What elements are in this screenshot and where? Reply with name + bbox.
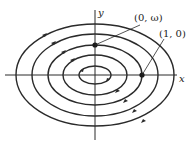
- x-axis-label: x: [179, 73, 185, 84]
- phase-portrait: x y (0, ω) (1, 0): [0, 0, 193, 146]
- arrow-icon: [141, 119, 146, 123]
- y-axis-label: y: [97, 7, 104, 18]
- label-0-omega: (0, ω): [134, 12, 163, 23]
- leader-1-0: [142, 39, 164, 75]
- arrow-icon: [132, 109, 137, 113]
- label-1-0: (1, 0): [159, 28, 186, 39]
- arrow-icon: [123, 99, 128, 103]
